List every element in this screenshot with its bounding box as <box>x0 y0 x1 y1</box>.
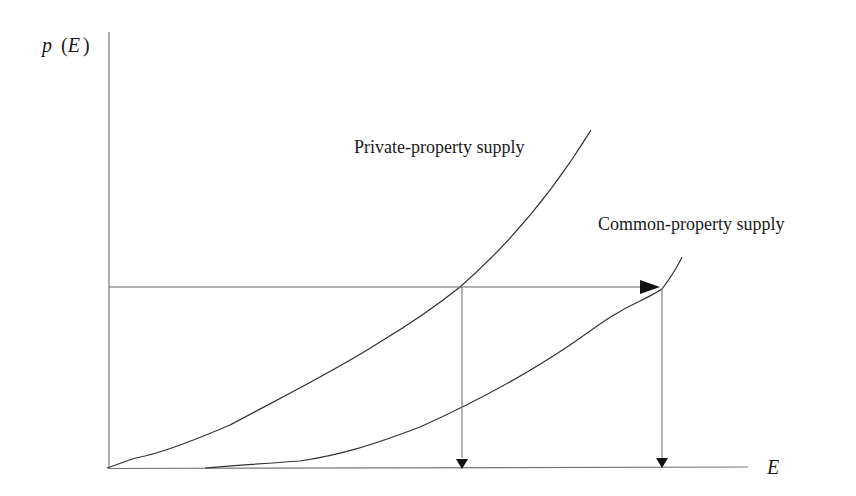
common-quantity-arrowhead-icon <box>656 458 668 468</box>
x-axis <box>109 467 748 469</box>
private-property-supply-label: Private-property supply <box>354 137 524 157</box>
common-property-supply-curve <box>205 257 682 468</box>
y-axis-label: p (E) <box>40 34 90 57</box>
supply-diagram: p (E) E Private-property supply Common-p… <box>0 0 856 496</box>
x-axis-label: E <box>766 456 779 478</box>
common-property-supply-label: Common-property supply <box>598 214 785 234</box>
private-property-supply-curve <box>107 130 591 468</box>
